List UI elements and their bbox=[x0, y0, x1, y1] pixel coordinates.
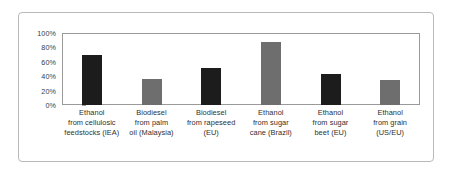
x-axis: Ethanolfrom cellulosicfeedstocks (IEA)Bi… bbox=[62, 108, 420, 156]
x-tick-label-line: from sugar bbox=[237, 118, 305, 128]
y-tick-mark bbox=[82, 105, 86, 106]
x-tick-label: Ethanolfrom sugarcane (Brazil) bbox=[237, 108, 305, 137]
y-tick-label: 40% bbox=[41, 72, 56, 81]
bar bbox=[82, 55, 102, 105]
x-tick-label-line: (US/EU) bbox=[356, 128, 424, 138]
x-tick-label-line: cane (Brazil) bbox=[237, 128, 305, 138]
x-tick-label: Biodieselfrom rapeseed(EU) bbox=[177, 108, 245, 137]
x-tick-label-line: Biodiesel bbox=[118, 108, 186, 118]
x-tick-label-line: Ethanol bbox=[356, 108, 424, 118]
bar bbox=[380, 80, 400, 105]
bar bbox=[321, 74, 341, 105]
y-tick-label: 100% bbox=[37, 29, 56, 38]
bars-layer bbox=[62, 33, 420, 105]
y-axis: 0%20%40%60%80%100% bbox=[24, 33, 60, 105]
x-tick-label-line: from sugar bbox=[297, 118, 365, 128]
figure-root: 0%20%40%60%80%100% Ethanolfrom cellulosi… bbox=[0, 0, 452, 173]
x-tick-label-line: from cellulosic bbox=[58, 118, 126, 128]
x-tick-label-line: Ethanol bbox=[297, 108, 365, 118]
x-tick-label-line: Ethanol bbox=[237, 108, 305, 118]
y-tick-label: 20% bbox=[41, 86, 56, 95]
x-tick-label: Ethanolfrom grain(US/EU) bbox=[356, 108, 424, 137]
x-tick-label: Ethanolfrom cellulosicfeedstocks (IEA) bbox=[58, 108, 126, 137]
y-tick-label: 80% bbox=[41, 43, 56, 52]
x-tick-label-line: from grain bbox=[356, 118, 424, 128]
bar bbox=[201, 68, 221, 105]
x-tick-label-line: Biodiesel bbox=[177, 108, 245, 118]
bar bbox=[142, 79, 162, 105]
bar-chart: 0%20%40%60%80%100% Ethanolfrom cellulosi… bbox=[0, 0, 452, 173]
x-tick-label-line: Ethanol bbox=[58, 108, 126, 118]
bar bbox=[261, 42, 281, 105]
x-tick-label-line: feedstocks (IEA) bbox=[58, 128, 126, 138]
x-tick-label-line: from palm bbox=[118, 118, 186, 128]
x-tick-label: Biodieselfrom palmoil (Malaysia) bbox=[118, 108, 186, 137]
x-tick-label-line: (EU) bbox=[177, 128, 245, 138]
x-tick-label: Ethanolfrom sugarbeet (EU) bbox=[297, 108, 365, 137]
y-tick-label: 60% bbox=[41, 57, 56, 66]
x-tick-label-line: from rapeseed bbox=[177, 118, 245, 128]
x-tick-label-line: oil (Malaysia) bbox=[118, 128, 186, 138]
y-tick-label: 0% bbox=[45, 101, 56, 110]
x-tick-label-line: beet (EU) bbox=[297, 128, 365, 138]
